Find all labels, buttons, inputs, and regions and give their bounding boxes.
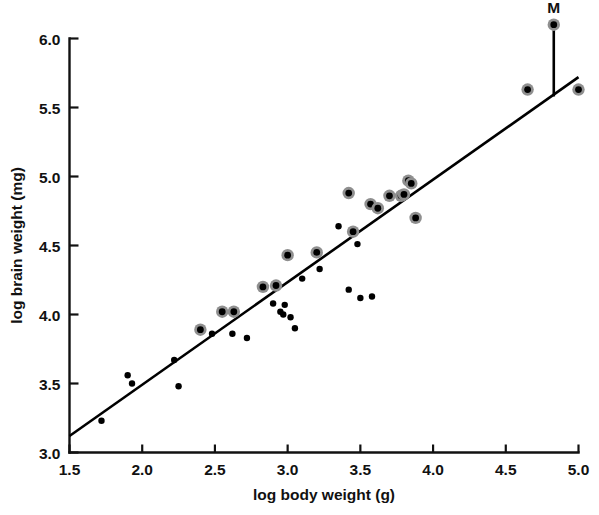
x-axis-tick-label: 3.5	[350, 461, 372, 478]
data-point-ringed	[228, 306, 240, 318]
data-point-plain	[171, 357, 177, 363]
data-point-ringed	[347, 226, 359, 238]
data-point-core	[550, 21, 557, 28]
y-axis-title: log brain weight (mg)	[8, 167, 25, 324]
data-point-ringed	[216, 306, 228, 318]
data-point-ringed	[572, 83, 584, 95]
data-point-core	[260, 284, 267, 291]
data-point-ringed	[405, 177, 417, 189]
data-point-plain	[270, 300, 276, 306]
x-axis-tick-label: 5.0	[568, 461, 590, 478]
y-axis-tick-label: 3.5	[39, 376, 61, 393]
data-point-plain	[124, 372, 130, 378]
data-point-ringed	[281, 249, 293, 261]
data-point-plain	[292, 325, 298, 331]
data-point-plain	[335, 223, 341, 229]
data-point-core	[412, 215, 419, 222]
data-point-plain	[357, 295, 363, 301]
data-point-ringed	[343, 187, 355, 199]
data-point-plain	[129, 380, 135, 386]
data-point-ringed	[257, 281, 269, 293]
data-point-plain	[346, 286, 352, 292]
point-annotation-label: M	[547, 0, 560, 16]
data-point-plain	[369, 293, 375, 299]
data-point-plain	[282, 302, 288, 308]
data-point-core	[575, 86, 582, 93]
data-point-core	[401, 191, 408, 198]
data-point-core	[284, 252, 291, 259]
regression-fit-line	[70, 77, 579, 436]
data-point-core	[230, 308, 237, 315]
data-point-plain	[316, 266, 322, 272]
x-axis-tick-label: 1.5	[59, 461, 81, 478]
x-axis-tick-label: 2.5	[204, 461, 226, 478]
y-axis-tick-label: 4.5	[39, 238, 61, 255]
data-point-plain	[354, 241, 360, 247]
data-point-ringed	[270, 279, 282, 291]
data-point-plain	[229, 331, 235, 337]
data-point-ringed	[372, 202, 384, 214]
x-axis-tick-label: 2.0	[131, 461, 153, 478]
data-point-core	[197, 326, 204, 333]
data-point-core	[524, 86, 531, 93]
data-point-ringed	[383, 190, 395, 202]
data-point-core	[350, 228, 357, 235]
data-point-ringed	[398, 188, 410, 200]
data-point-ringed	[409, 212, 421, 224]
x-axis-tick-label: 3.0	[277, 461, 299, 478]
data-point-ringed	[548, 19, 560, 31]
scatter-plot-figure: 1.52.02.53.03.54.04.55.03.03.54.04.55.05…	[0, 0, 599, 515]
data-point-core	[408, 180, 415, 187]
data-point-core	[386, 192, 393, 199]
x-axis-tick-label: 4.0	[422, 461, 444, 478]
data-point-ringed	[311, 246, 323, 258]
data-point-core	[273, 282, 280, 289]
data-point-plain	[280, 311, 286, 317]
y-axis-tick-label: 4.0	[39, 307, 61, 324]
data-point-plain	[244, 335, 250, 341]
y-axis-tick-label: 3.0	[39, 445, 61, 462]
x-axis-title: log body weight (g)	[253, 486, 395, 503]
y-axis-tick-label: 5.0	[39, 169, 61, 186]
plot-canvas: 1.52.02.53.03.54.04.55.03.03.54.04.55.05…	[0, 0, 599, 515]
data-point-ringed	[521, 83, 533, 95]
data-point-plain	[209, 331, 215, 337]
data-point-plain	[299, 275, 305, 281]
data-point-plain	[98, 418, 104, 424]
data-point-core	[345, 190, 352, 197]
x-axis-tick-label: 4.5	[495, 461, 517, 478]
data-point-plain	[287, 314, 293, 320]
y-axis-tick-label: 5.5	[39, 100, 61, 117]
data-point-core	[374, 205, 381, 212]
y-axis-tick-label: 6.0	[39, 31, 61, 48]
data-point-plain	[175, 383, 181, 389]
data-point-core	[219, 308, 226, 315]
data-point-ringed	[194, 323, 206, 335]
data-point-core	[313, 249, 320, 256]
